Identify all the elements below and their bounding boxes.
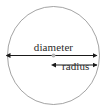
diameter-label: diameter (0, 42, 107, 53)
center-dot (52, 54, 56, 58)
diagram-canvas (0, 0, 107, 111)
circle-diagram: diameter radius (0, 0, 107, 111)
radius-label: radius (62, 61, 89, 72)
